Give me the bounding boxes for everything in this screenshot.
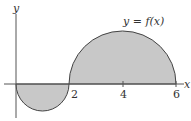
x-tick-label-2: 2 (71, 88, 78, 101)
region-below-axis (16, 84, 69, 111)
y-axis-label: y (12, 2, 20, 15)
x-tick-label-4: 4 (120, 88, 127, 101)
function-graph: y x y = f(x) 2 4 6 (0, 0, 191, 121)
x-axis-label: x (184, 78, 191, 91)
x-tick-label-6: 6 (173, 88, 180, 101)
function-label: y = f(x) (122, 15, 164, 28)
region-above-axis (69, 31, 176, 84)
